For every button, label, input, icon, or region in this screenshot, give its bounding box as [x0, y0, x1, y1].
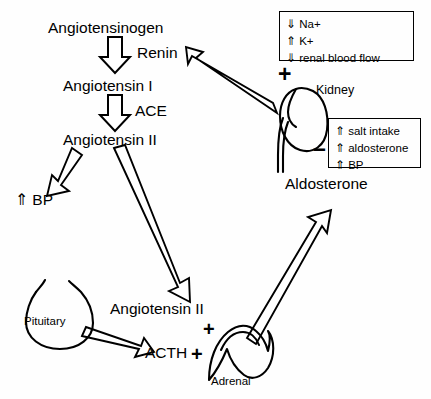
label-ace: ACE [135, 103, 167, 119]
stimulus-row-0-label: Na+ [299, 18, 320, 30]
stimulus-row-2: ⇓ renal blood flow [286, 50, 407, 67]
inhibition-row-1-label: aldosterone [348, 142, 408, 154]
label-angiotensin-1: Angiotensin I [63, 78, 153, 94]
inhibition-row-2: ⇑ BP [335, 157, 414, 174]
kidney-inhibition-box: ⇑ salt intake ⇑ aldosterone ⇑ BP [328, 118, 421, 168]
arrow-angiotensin2-to-bp [47, 148, 82, 196]
arrow-kidney-to-renin [186, 47, 277, 113]
sign-adrenal-plus-top: + [203, 319, 215, 339]
label-acth: ACTH [145, 345, 187, 361]
arrow-angiotensin2-to-angiotensin2-lower [114, 145, 190, 302]
sign-acth-plus: + [191, 344, 203, 364]
stimulus-row-1-arrow: ⇑ [286, 34, 296, 48]
label-bp-increase: ⇑ BP [15, 192, 53, 208]
stimulus-row-0: ⇓ Na+ [286, 16, 407, 33]
stimulus-row-2-label: renal blood flow [299, 52, 380, 64]
rass-diagram: Angiotensinogen Renin Angiotensin I ACE … [0, 0, 431, 399]
label-angiotensin-2: Angiotensin II [63, 132, 157, 148]
kidney-stimulus-box: ⇓ Na+ ⇑ K+ ⇓ renal blood flow [279, 11, 414, 61]
label-angiotensin-2-lower: Angiotensin II [110, 301, 204, 317]
sign-kidney-minus: – [313, 137, 326, 160]
adrenal-icon [209, 326, 273, 380]
arrow-adrenal-to-aldosterone [247, 210, 331, 344]
arrow-angiotensinogen-to-angiotensin1 [100, 37, 130, 73]
arrow-angiotensin1-to-angiotensin2 [100, 95, 130, 131]
inhibition-row-2-label: BP [348, 159, 363, 171]
label-aldosterone: Aldosterone [285, 176, 368, 192]
label-angiotensinogen: Angiotensinogen [48, 20, 164, 36]
inhibition-row-1-arrow: ⇑ [335, 141, 345, 155]
label-adrenal: Adrenal [211, 376, 251, 388]
stimulus-row-0-arrow: ⇓ [286, 17, 296, 31]
arrow-pituitary-to-acth [82, 327, 154, 357]
stimulus-row-1-label: K+ [299, 35, 313, 47]
inhibition-row-0-label: salt intake [348, 125, 400, 137]
inhibition-row-0: ⇑ salt intake [335, 123, 414, 140]
inhibition-row-0-arrow: ⇑ [335, 124, 345, 138]
label-kidney: Kidney [316, 84, 354, 97]
stimulus-row-2-arrow: ⇓ [286, 51, 296, 65]
inhibition-row-1: ⇑ aldosterone [335, 140, 414, 157]
inhibition-row-2-arrow: ⇑ [335, 158, 345, 172]
stimulus-row-1: ⇑ K+ [286, 33, 407, 50]
label-renin: Renin [137, 45, 178, 61]
label-pituitary: Pituitary [24, 316, 66, 328]
